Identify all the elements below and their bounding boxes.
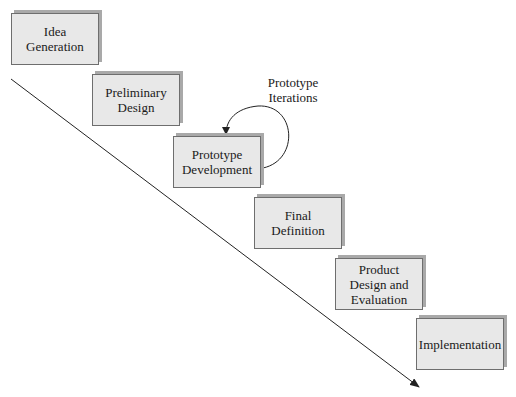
stage-label-line: Final	[271, 208, 324, 223]
stage-label-line: Preliminary	[105, 85, 166, 100]
stage-label-line: Definition	[271, 223, 324, 238]
stage-label-line: Design and	[350, 277, 409, 292]
stage-label-line: Evaluation	[350, 292, 409, 307]
stage-label-line: Design	[105, 100, 166, 115]
loop-label-line: Prototype	[258, 75, 328, 90]
loop-label-line: Iterations	[258, 90, 328, 105]
stage-prototype-development: Prototype Development	[173, 136, 261, 188]
stage-label-line: Implementation	[419, 337, 501, 352]
loop-label-prototype-iterations: Prototype Iterations	[258, 75, 328, 105]
stage-label-line: Prototype	[182, 147, 252, 162]
stage-label-line: Development	[182, 162, 252, 177]
process-diagram: Idea Generation Preliminary Design Proto…	[0, 0, 516, 397]
stage-implementation: Implementation	[416, 318, 504, 370]
stage-product-design-evaluation: Product Design and Evaluation	[335, 258, 423, 310]
stage-label-line: Idea	[26, 24, 84, 39]
flow-arrow	[11, 79, 419, 387]
stage-final-definition: Final Definition	[254, 197, 342, 249]
stage-preliminary-design: Preliminary Design	[92, 74, 180, 126]
stage-label-line: Product	[350, 262, 409, 277]
stage-idea-generation: Idea Generation	[11, 13, 99, 65]
stage-label-line: Generation	[26, 39, 84, 54]
